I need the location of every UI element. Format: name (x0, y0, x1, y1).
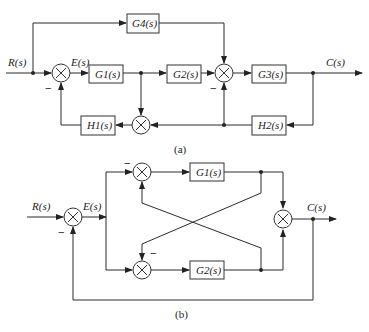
minus-sign-bottom-b: − (150, 247, 156, 259)
summing-junction-1 (52, 64, 70, 82)
output-label-a: C(s) (326, 56, 345, 69)
summing-junction-bottom-b (133, 261, 151, 279)
caption-b: (b) (175, 308, 188, 321)
diagram-b: R(s) − E(s) − G1(s) − (27, 157, 336, 321)
input-label-b: R(s) (31, 200, 51, 213)
g2-to-right-sum-line (224, 230, 283, 270)
minus-sign-sum2: − (210, 82, 216, 94)
summing-junction-right-b (274, 210, 292, 228)
minus-sign-sum1: − (45, 82, 51, 94)
error-label-a: E(s) (70, 56, 90, 69)
block-g2-a-label: G2(s) (173, 68, 198, 81)
summing-junction-main-b (64, 208, 82, 226)
summing-junction-top-b (133, 163, 151, 181)
block-diagram-canvas: R(s) G4(s) − E(s) G1(s) G2(s) (0, 0, 369, 332)
summing-junction-2 (215, 64, 233, 82)
output-to-h2-line (287, 73, 313, 125)
caption-a: (a) (174, 143, 187, 156)
block-g2-b-label: G2(s) (196, 264, 221, 277)
input-label-a: R(s) (7, 56, 27, 69)
block-h2-label: H2(s) (257, 119, 283, 132)
block-g1-b-label: G1(s) (196, 166, 221, 179)
g1-to-right-sum-line (224, 172, 283, 208)
g4-to-sum2-line (159, 23, 224, 63)
block-g3-label: G3(s) (258, 68, 283, 81)
output-label-b: C(s) (307, 201, 326, 214)
error-label-b: E(s) (82, 200, 102, 213)
minus-sign-top-b: − (124, 157, 130, 169)
block-h1-label: H1(s) (86, 119, 112, 132)
summing-junction-3 (132, 116, 150, 134)
diagram-a: R(s) G4(s) − E(s) G1(s) G2(s) (6, 14, 362, 156)
h1-to-sum1-line (61, 83, 81, 125)
cross-g2-to-top-sum-line (142, 182, 261, 270)
main-feedback-line-b (73, 219, 313, 300)
block-g4-label: G4(s) (132, 17, 157, 30)
block-g1-a-label: G1(s) (95, 68, 120, 81)
minus-sign-main-b: − (58, 226, 64, 238)
cross-g1-to-bottom-sum-line (142, 172, 261, 260)
